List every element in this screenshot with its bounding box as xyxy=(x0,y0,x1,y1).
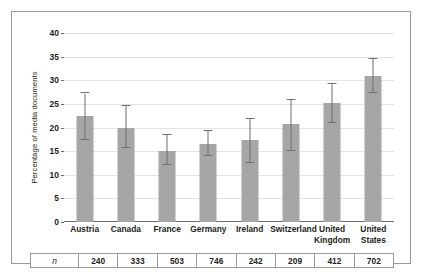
bar-group xyxy=(353,33,394,222)
x-axis-label: Ireland xyxy=(229,224,270,235)
y-axis-tick-label: 0 xyxy=(54,218,59,227)
error-bar xyxy=(249,119,250,164)
error-bar xyxy=(167,135,168,165)
bar-group xyxy=(188,33,229,222)
bar-group xyxy=(270,33,311,222)
bar-group xyxy=(229,33,270,222)
error-bar-cap-upper xyxy=(204,130,213,131)
figure-frame: Percentage of media documents 0510152025… xyxy=(11,11,411,264)
bar-group xyxy=(64,33,105,222)
error-bar xyxy=(290,100,291,151)
sample-size-cell: 503 xyxy=(158,254,197,267)
y-axis-tick-label: 40 xyxy=(50,29,59,38)
error-bar-cap-lower xyxy=(245,162,254,163)
bar-group xyxy=(105,33,146,222)
sample-size-cell: 702 xyxy=(355,254,393,267)
bar-group xyxy=(312,33,353,222)
error-bar-cap-upper xyxy=(369,58,378,59)
x-axis-label: United Kingdom xyxy=(312,224,353,245)
bar-group xyxy=(147,33,188,222)
sample-size-table: n 240333503746242209412702 xyxy=(30,253,394,268)
plot-area: 0510152025303540 xyxy=(64,33,394,222)
error-bar-cap-upper xyxy=(328,83,337,84)
error-bar-cap-upper xyxy=(163,134,172,135)
error-bar-cap-lower xyxy=(328,122,337,123)
error-bar-cap-upper xyxy=(80,92,89,93)
sample-size-cell: 209 xyxy=(276,254,315,267)
y-axis-title-text: Percentage of media documents xyxy=(30,71,39,183)
x-axis-label: United States xyxy=(353,224,394,245)
error-bar xyxy=(125,106,126,148)
y-axis-tick-label: 25 xyxy=(50,100,59,109)
sample-size-header: n xyxy=(31,254,79,267)
x-axis-label: Switzerland xyxy=(270,224,311,235)
y-axis-tick-mark xyxy=(61,222,64,223)
y-axis-tick-label: 30 xyxy=(50,76,59,85)
x-axis-label: Austria xyxy=(64,224,105,235)
bar-series xyxy=(64,33,394,222)
error-bar-cap-upper xyxy=(245,118,254,119)
error-bar-cap-upper xyxy=(286,99,295,100)
error-bar xyxy=(84,94,85,141)
sample-size-cell: 333 xyxy=(118,254,157,267)
error-bar xyxy=(332,84,333,123)
y-axis-tick-label: 10 xyxy=(50,171,59,180)
x-axis-label: Germany xyxy=(188,224,229,235)
error-bar-cap-upper xyxy=(121,105,130,106)
sample-size-cell: 412 xyxy=(315,254,354,267)
x-axis-label: Canada xyxy=(105,224,146,235)
error-bar-cap-lower xyxy=(80,139,89,140)
error-bar-cap-lower xyxy=(369,92,378,93)
y-axis-tick-label: 35 xyxy=(50,52,59,61)
y-axis-tick-label: 20 xyxy=(50,123,59,132)
y-axis-tick-label: 15 xyxy=(50,147,59,156)
sample-size-cell: 746 xyxy=(197,254,236,267)
error-bar xyxy=(373,59,374,93)
bar xyxy=(365,76,382,222)
sample-size-cell: 242 xyxy=(237,254,276,267)
error-bar-cap-lower xyxy=(163,164,172,165)
error-bar-cap-lower xyxy=(286,150,295,151)
error-bar xyxy=(208,131,209,156)
x-axis-label: France xyxy=(147,224,188,235)
y-axis-title: Percentage of media documents xyxy=(28,33,40,222)
sample-size-cell: 240 xyxy=(79,254,118,267)
y-axis-tick-label: 5 xyxy=(54,194,59,203)
error-bar-cap-lower xyxy=(121,147,130,148)
x-axis-category-labels: AustriaCanadaFranceGermanyIrelandSwitzer… xyxy=(64,224,394,254)
error-bar-cap-lower xyxy=(204,155,213,156)
